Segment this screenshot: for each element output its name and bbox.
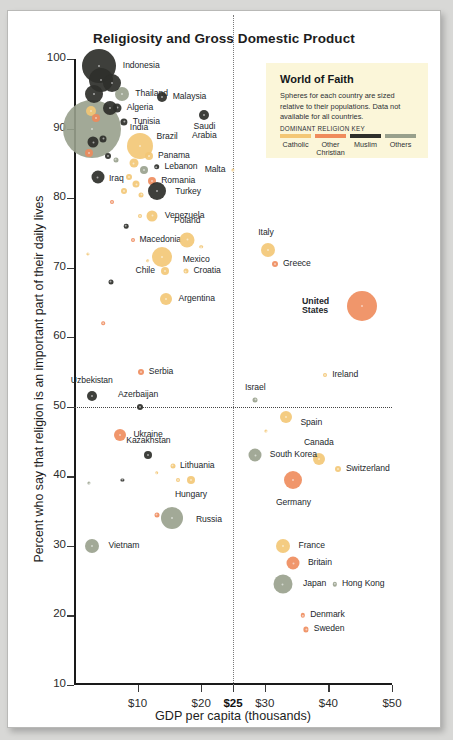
- bubble-label-india: India: [130, 123, 148, 132]
- bubble-unlabeled[interactable]: [103, 74, 121, 92]
- bubble-vietnam[interactable]: [85, 539, 99, 553]
- bubble-lithuania[interactable]: [170, 463, 175, 468]
- x-tick-label: $50: [369, 697, 415, 709]
- x-tick: [265, 685, 266, 692]
- bubble-spain[interactable]: [280, 411, 292, 423]
- bubble-unlabeled[interactable]: [133, 181, 140, 188]
- y-axis-title-wrap: Percent who say that religion is an impo…: [26, 59, 52, 685]
- bubble-unlabeled[interactable]: [88, 482, 91, 485]
- bubble-tunisia[interactable]: [121, 118, 128, 125]
- bubble-ireland[interactable]: [323, 373, 327, 377]
- bubble-denmark[interactable]: [301, 613, 305, 617]
- bubble-unlabeled[interactable]: [154, 512, 159, 517]
- bubble-label-britain: Britain: [308, 559, 332, 568]
- x-tick: [201, 685, 202, 692]
- bubble-label-japan: Japan: [303, 580, 326, 589]
- x-tick: [392, 685, 393, 692]
- bubble-unlabeled[interactable]: [264, 430, 267, 433]
- bubble-lebanon[interactable]: [154, 164, 160, 170]
- bubble-switzerland[interactable]: [335, 466, 341, 472]
- bubble-label-switzerland: Switzerland: [346, 465, 390, 474]
- bubble-label-serbia: Serbia: [149, 367, 174, 376]
- bubble-uzbekistan[interactable]: [87, 391, 97, 401]
- bubble-label-russia: Russia: [196, 515, 222, 524]
- y-tick-label: 100: [34, 51, 66, 63]
- bubble-label-iraq: Iraq: [109, 175, 124, 184]
- page-title: Religiosity and Gross Domestic Product: [8, 31, 440, 46]
- bubble-italy[interactable]: [261, 243, 275, 257]
- bubble-panama[interactable]: [145, 152, 153, 160]
- bubble-azerbaijan[interactable]: [137, 404, 143, 410]
- bubble-unlabeled[interactable]: [138, 214, 142, 218]
- bubble-label-algeria: Algeria: [127, 103, 153, 112]
- bubble-japan[interactable]: [273, 575, 292, 594]
- bubble-unlabeled[interactable]: [100, 135, 107, 142]
- bubble-turkey[interactable]: [148, 182, 166, 200]
- bubble-sweden[interactable]: [304, 627, 309, 632]
- bubble-unlabeled[interactable]: [121, 478, 124, 481]
- bubble-malta[interactable]: [231, 169, 234, 172]
- bubble-chile[interactable]: [161, 267, 169, 275]
- bubble-unlabeled[interactable]: [92, 114, 100, 122]
- bubble-unlabeled[interactable]: [121, 188, 127, 194]
- bubble-unlabeled[interactable]: [176, 478, 180, 482]
- bubble-unlabeled[interactable]: [85, 85, 103, 103]
- y-tick: [67, 407, 74, 408]
- bubble-britain[interactable]: [287, 557, 300, 570]
- bubble-unlabeled[interactable]: [129, 159, 138, 168]
- bubble-unlabeled[interactable]: [199, 245, 203, 249]
- bubble-label-ireland: Ireland: [332, 371, 358, 380]
- bubble-unlabeled[interactable]: [88, 137, 99, 148]
- bubble-serbia[interactable]: [138, 369, 144, 375]
- y-tick: [67, 685, 74, 686]
- bubble-label-brazil: Brazil: [157, 132, 178, 141]
- bubble-unlabeled[interactable]: [146, 259, 150, 263]
- bubble-greece[interactable]: [272, 261, 278, 267]
- bubble-kazakhstan[interactable]: [144, 451, 152, 459]
- bubble-macedonia[interactable]: [131, 238, 135, 242]
- bubble-hungary[interactable]: [187, 476, 195, 484]
- bubble-croatia[interactable]: [183, 269, 188, 274]
- bubble-mexico[interactable]: [152, 247, 172, 267]
- bubble-label-poland: Poland: [174, 217, 200, 226]
- bubble-poland[interactable]: [180, 232, 195, 247]
- bubble-russia[interactable]: [161, 507, 183, 529]
- bubble-unlabeled[interactable]: [86, 252, 89, 255]
- y-tick-label: 10: [34, 677, 66, 689]
- bubble-unlabeled[interactable]: [101, 322, 105, 326]
- bubble-unlabeled[interactable]: [108, 279, 113, 284]
- y-tick: [67, 476, 74, 477]
- bubble-ukraine[interactable]: [114, 429, 126, 441]
- bubble-unlabeled[interactable]: [85, 149, 93, 157]
- bubble-united-states[interactable]: [347, 291, 377, 321]
- plot-area: 102030405060708090100$10$20$25$30$40$50 …: [74, 59, 392, 685]
- bubble-saudi-arabia[interactable]: [199, 110, 209, 120]
- bubble-iraq[interactable]: [91, 171, 104, 184]
- bubble-germany[interactable]: [284, 471, 302, 489]
- bubble-argentina[interactable]: [160, 293, 172, 305]
- bubble-unlabeled[interactable]: [105, 153, 111, 159]
- bubble-france[interactable]: [276, 539, 290, 553]
- bubble-label-spain: Spain: [300, 419, 322, 428]
- bubble-unlabeled[interactable]: [155, 471, 159, 475]
- bubble-unlabeled[interactable]: [140, 166, 148, 174]
- bubble-label-united-states: UnitedStates: [302, 296, 329, 315]
- bubble-unlabeled[interactable]: [113, 157, 118, 162]
- bubble-malaysia[interactable]: [157, 92, 167, 102]
- bubble-unlabeled[interactable]: [103, 101, 117, 115]
- y-tick: [67, 198, 74, 199]
- bubble-venezuela[interactable]: [147, 210, 158, 221]
- source-note: Source: Gallup, CIA "The World Factbook": [42, 727, 152, 728]
- bubble-unlabeled[interactable]: [110, 200, 114, 204]
- y-tick-label: 60: [34, 329, 66, 341]
- bubble-label-mexico: Mexico: [183, 256, 210, 265]
- bubble-unlabeled[interactable]: [124, 224, 129, 229]
- bubble-unlabeled[interactable]: [126, 174, 132, 180]
- bubble-hong-kong[interactable]: [333, 582, 337, 586]
- bubble-label-chile: Chile: [136, 267, 155, 276]
- bubble-label-panama: Panama: [158, 152, 190, 161]
- bubble-israel[interactable]: [253, 397, 258, 402]
- bubble-south-korea[interactable]: [249, 449, 262, 462]
- bubble-unlabeled[interactable]: [139, 192, 144, 197]
- bubble-label-germany: Germany: [276, 498, 311, 507]
